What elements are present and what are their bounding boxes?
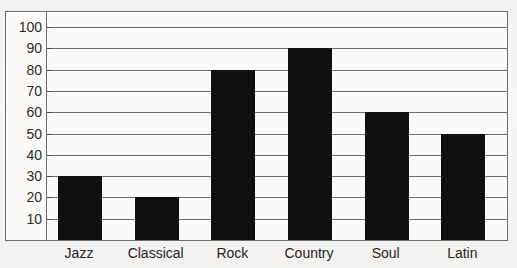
- cropped-chart-title: [0, 0, 517, 9]
- gridline: [47, 112, 507, 113]
- y-tick-mark: [47, 48, 52, 49]
- gridline: [47, 70, 507, 71]
- bar[interactable]: [288, 48, 332, 240]
- y-tick-mark: [47, 134, 52, 135]
- bar[interactable]: [135, 197, 179, 240]
- y-tick-label: 40: [26, 148, 42, 162]
- bar-chart: 100908070605040302010: [5, 11, 508, 241]
- gridline: [47, 48, 507, 49]
- y-tick-label: 60: [26, 105, 42, 119]
- bar[interactable]: [211, 70, 255, 240]
- bar[interactable]: [58, 176, 102, 240]
- y-tick-label: 30: [26, 169, 42, 183]
- y-tick-label: 50: [26, 127, 42, 141]
- plot-area: [47, 12, 507, 240]
- y-tick-label: 20: [26, 190, 42, 204]
- gridline: [47, 27, 507, 28]
- y-tick-label: 80: [26, 63, 42, 77]
- y-tick-mark: [47, 112, 52, 113]
- y-axis: 100908070605040302010: [6, 12, 47, 240]
- bar[interactable]: [441, 134, 485, 241]
- x-axis: JazzClassicalRockCountrySoulLatin: [0, 244, 517, 268]
- gridline: [47, 91, 507, 92]
- y-tick-mark: [47, 176, 52, 177]
- y-tick-mark: [47, 155, 52, 156]
- y-tick-label: 10: [26, 212, 42, 226]
- y-tick-label: 70: [26, 84, 42, 98]
- y-tick-label: 90: [26, 41, 42, 55]
- y-tick-mark: [47, 219, 52, 220]
- x-tick-label: Latin: [412, 244, 512, 263]
- y-tick-label: 100: [19, 20, 42, 34]
- bar[interactable]: [365, 112, 409, 240]
- gridline: [47, 155, 507, 156]
- y-tick-mark: [47, 27, 52, 28]
- gridline: [47, 197, 507, 198]
- y-tick-mark: [47, 91, 52, 92]
- gridline: [47, 134, 507, 135]
- y-tick-mark: [47, 197, 52, 198]
- gridline: [47, 176, 507, 177]
- gridline: [47, 219, 507, 220]
- y-tick-mark: [47, 70, 52, 71]
